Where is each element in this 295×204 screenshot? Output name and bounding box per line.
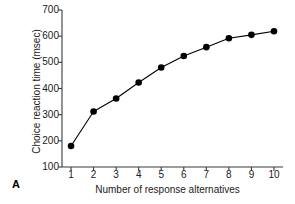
data-point xyxy=(68,143,75,150)
y-axis-tick-marks xyxy=(58,10,62,167)
data-point xyxy=(271,28,278,35)
plot-area xyxy=(0,0,295,204)
data-point xyxy=(158,64,165,71)
data-point xyxy=(248,32,255,39)
data-point-markers xyxy=(68,28,278,149)
data-point xyxy=(180,53,187,60)
data-point xyxy=(135,79,142,86)
data-point xyxy=(113,95,120,102)
data-line-series xyxy=(71,31,274,146)
data-point xyxy=(226,35,233,42)
data-point xyxy=(90,108,97,115)
data-point xyxy=(203,44,210,51)
x-axis-tick-marks xyxy=(71,167,274,171)
figure-panel-a: A Choice reaction time (msec) Number of … xyxy=(0,0,295,204)
